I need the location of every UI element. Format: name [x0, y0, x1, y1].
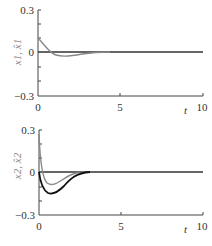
x-tick-10: 10	[197, 220, 209, 232]
x-tick-0: 0	[35, 101, 41, 113]
series-x2-hat	[39, 134, 85, 184]
y-axis-label: x1, x̂1	[11, 39, 23, 66]
series-x1-hat	[38, 38, 110, 56]
y-tick-min: −0.3	[14, 90, 34, 102]
y-tick-min: −0.3	[15, 209, 35, 221]
y-tick-max: 0.3	[21, 124, 35, 136]
x-axis-label: t	[184, 104, 188, 116]
x-axis-label: t	[184, 223, 188, 235]
chart-top: 0.3 0 −0.3 0 5 10 t x1, x̂1	[11, 4, 208, 116]
y-tick-zero: 0	[29, 46, 35, 58]
x-tick-5: 5	[118, 220, 124, 232]
chart-bottom: 0.3 0 −0.3 0 5 10 t x2, x̂2	[11, 124, 208, 235]
x-tick-10: 10	[197, 101, 209, 113]
y-axis-label: x2, x̂2	[11, 152, 23, 180]
y-tick-zero: 0	[30, 166, 36, 178]
y-tick-max: 0.3	[20, 4, 34, 16]
chart-figure: 0.3 0 −0.3 0 5 10 t x1, x̂1 0.3 0 −0.3 0…	[0, 0, 212, 246]
x-tick-0: 0	[36, 220, 42, 232]
x-tick-5: 5	[117, 101, 123, 113]
